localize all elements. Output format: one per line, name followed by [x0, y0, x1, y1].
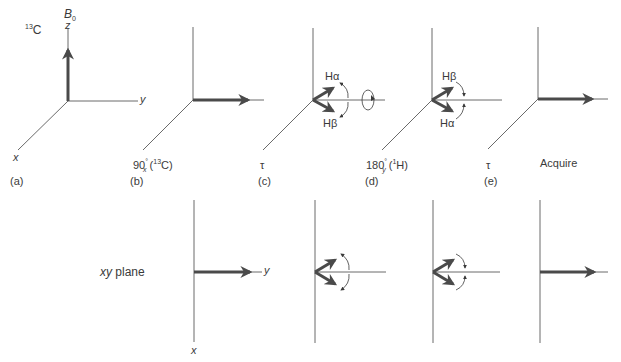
z-axis-label: z — [65, 20, 71, 31]
xy-plane-axes: xy — [100, 265, 112, 279]
panel-d-axes — [382, 28, 502, 150]
xy-y-axis-label: y — [264, 265, 270, 276]
pulse-nucleus-mass: 13 — [153, 158, 161, 165]
panel-d-h-beta-vector — [432, 88, 452, 100]
step-label-d: 180°y (1H) — [366, 158, 408, 173]
xy-plane-word: plane — [112, 265, 145, 279]
xy-panel-3-rotation-arrow-down — [456, 254, 465, 268]
xy-plane-title: xy plane — [100, 266, 145, 278]
nucleus-symbol: C — [33, 23, 42, 37]
panel-b-axes — [143, 27, 264, 150]
xy-panel-2-vector-upper — [315, 260, 335, 272]
panel-label-e: (e) — [484, 176, 497, 187]
step-label-c: τ — [260, 160, 264, 171]
panel-c-h-beta-label: Hβ — [323, 118, 337, 129]
panel-label-b: (b) — [130, 176, 143, 187]
xy-panel-3-axes — [433, 200, 500, 343]
panel-d-h-beta-label: Hβ — [442, 71, 456, 82]
nucleus-label: 13C — [25, 23, 41, 36]
pulse-axis: y — [382, 166, 386, 173]
panel-d-rotation-arrow-down — [456, 82, 464, 96]
pulse-nucleus: H — [396, 159, 404, 171]
xy-panel-2-rotation-arrow-up — [341, 254, 349, 270]
panel-label-a: (a) — [10, 176, 23, 187]
y-axis-label: y — [140, 94, 146, 105]
xy-panel-2-axes — [315, 200, 386, 343]
xy-panel-3-vector-upper — [433, 260, 453, 272]
xy-x-axis-label: x — [191, 345, 197, 356]
degree-symbol: ° — [145, 158, 148, 165]
panel-c-h-alpha-vector — [313, 88, 333, 100]
step-label-b: 90°x (13C) — [133, 158, 173, 173]
panel-d-h-alpha-vector — [432, 100, 452, 111]
panel-d-rotation-arrow-up — [456, 104, 464, 119]
panel-label-c: (c) — [258, 176, 271, 187]
degree-symbol: ° — [384, 158, 387, 165]
panel-c-axes — [263, 28, 385, 150]
panel-c-h-beta-vector — [313, 100, 333, 111]
panel-d-h-alpha-label: Hα — [440, 118, 454, 129]
panel-c-rotation-arrow-up — [340, 83, 348, 98]
vector-diagram — [0, 0, 621, 362]
step-label-acquire: Acquire — [540, 158, 577, 169]
panel-c-h-alpha-label: Hα — [325, 71, 339, 82]
xy-panel-3-rotation-arrow-up — [456, 276, 465, 290]
xy-panel-3-vector-lower — [433, 272, 453, 284]
xy-panel-2-vector-lower — [315, 272, 335, 284]
pulse-nucleus: C — [161, 159, 169, 171]
step-label-e: τ — [486, 160, 490, 171]
x-axis-label: x — [13, 152, 19, 163]
panel-a-axes — [18, 28, 138, 150]
panel-e-axes — [488, 27, 608, 149]
xy-panel-2-rotation-arrow-down — [341, 274, 349, 290]
pulse-axis: x — [143, 166, 147, 173]
field-subscript: 0 — [72, 15, 76, 22]
panel-c-rotation-arrow-down — [340, 102, 348, 117]
nucleus-mass-number: 13 — [25, 23, 33, 30]
panel-label-d: (d) — [365, 176, 378, 187]
